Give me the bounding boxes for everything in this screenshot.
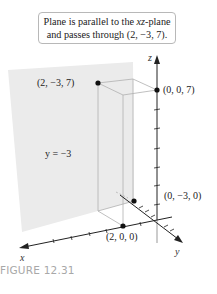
point-0-0-7 [154,87,159,92]
point-2-0-0 [120,223,125,228]
callout-box: Plane is parallel to the xz-plane and pa… [38,12,176,44]
callout-line-2: and passes through (2, −3, 7). [39,28,175,41]
point-0-neg3-0 [131,198,136,203]
figure-caption: FIGURE 12.31 [0,264,75,276]
y-axis-arrow-icon [174,235,183,243]
x-axis-arrow-icon [19,243,29,249]
z-axis-label: z [148,52,152,63]
figure-12-31: Plane is parallel to the xz-plane and pa… [0,0,217,294]
callout-line-1: Plane is parallel to the xz-plane [39,15,175,28]
z-axis-arrow-icon [154,55,160,64]
x-axis-label: x [20,252,24,263]
point-label-0-neg3-0: (0, −3, 0) [164,190,201,201]
point-label-2-neg3-7: (2, −3, 7) [37,77,74,88]
diagram-canvas [0,0,217,294]
point-2-neg3-7 [95,80,100,85]
y-axis-label: y [175,246,179,257]
point-label-2-0-0: (2, 0, 0) [106,231,138,242]
point-label-0-0-7: (0, 0, 7) [163,84,195,95]
plane-label: y = −3 [45,148,71,159]
